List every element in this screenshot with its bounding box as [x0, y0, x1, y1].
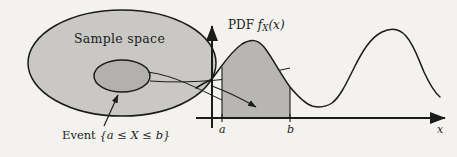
axis-label-a: a [219, 124, 226, 135]
axis-label-x: x [437, 124, 443, 135]
shaded-probability-area [212, 40, 312, 118]
pdf-symbol-argument: (x) [268, 18, 284, 32]
event-label-prefix: Event [62, 128, 99, 142]
probability-figure: Sample space Event {a ≤ X ≤ b} PDF fX(x)… [0, 0, 457, 157]
axis-label-b: b [287, 124, 294, 135]
sample-space-label: Sample space [74, 33, 165, 46]
event-label: Event {a ≤ X ≤ b} [62, 130, 170, 142]
pdf-axis-label: PDF fX(x) [228, 19, 285, 33]
event-ellipse [94, 60, 150, 92]
pdf-label-prefix: PDF [228, 18, 258, 32]
event-label-set: {a ≤ X ≤ b} [99, 128, 170, 142]
